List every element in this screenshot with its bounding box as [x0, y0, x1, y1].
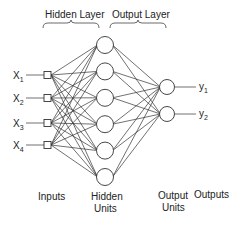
- neural-network-diagram: Hidden Layer Output Layer X1X2X3X4 y1y2 …: [0, 0, 237, 226]
- input-label: X4: [13, 140, 24, 153]
- input-label: X2: [13, 93, 24, 106]
- input-node-3: X3: [13, 118, 51, 131]
- input-layer: X1X2X3X4: [13, 70, 51, 153]
- edge-input-2-hidden-1: [51, 45, 98, 98]
- output-units-label-line2: Units: [162, 202, 185, 213]
- outputs-label: Outputs: [194, 189, 229, 200]
- input-node-1: X1: [13, 70, 51, 83]
- input-subscript: 2: [20, 99, 24, 106]
- inputs-label: Inputs: [38, 191, 65, 202]
- hidden-unit-5: [97, 142, 114, 159]
- input-square: [44, 95, 51, 102]
- output-layer-label: Output Layer: [112, 9, 170, 20]
- hidden-layer-label: Hidden Layer: [45, 9, 105, 20]
- hidden-units-label-line1: Hidden: [91, 191, 123, 202]
- output-node-2: y2: [160, 107, 209, 122]
- hidden-unit-3: [97, 89, 114, 106]
- output-unit: [160, 80, 175, 95]
- hidden-layer-brace: [43, 20, 99, 28]
- input-label: X3: [13, 118, 24, 131]
- input-square: [44, 120, 51, 127]
- output-units-label-line1: Output: [158, 190, 188, 201]
- hidden-unit-4: [97, 116, 114, 133]
- hidden-units-label-line2: Units: [94, 203, 117, 214]
- output-node-1: y1: [160, 80, 209, 95]
- output-subscript: 2: [204, 114, 208, 121]
- input-label: X1: [13, 70, 24, 83]
- edge-hidden-2-output-1: [113, 71, 161, 87]
- hidden-unit-6: [97, 169, 114, 186]
- output-layer: y1y2: [160, 80, 209, 122]
- hidden-layer: [97, 37, 114, 186]
- output-label: y2: [199, 108, 208, 121]
- hidden-unit-2: [97, 63, 114, 80]
- input-subscript: 1: [20, 76, 24, 83]
- input-square: [44, 142, 51, 149]
- input-subscript: 4: [20, 146, 24, 153]
- hidden-unit-1: [97, 37, 114, 54]
- edge-input-3-hidden-2: [51, 71, 98, 123]
- input-subscript: 3: [20, 124, 24, 131]
- input-node-4: X4: [13, 140, 51, 153]
- input-node-2: X2: [13, 93, 51, 106]
- output-label: y1: [199, 81, 208, 94]
- input-square: [44, 72, 51, 79]
- output-unit: [160, 107, 175, 122]
- edge-hidden-1-output-1: [113, 45, 161, 87]
- output-subscript: 1: [204, 87, 208, 94]
- output-layer-brace: [110, 20, 166, 28]
